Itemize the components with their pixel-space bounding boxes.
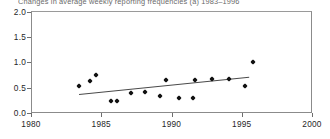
x-axis-tick-mark	[31, 113, 32, 117]
y-axis-tick-mark	[27, 12, 31, 13]
x-axis-tick-mark	[312, 113, 313, 117]
x-axis-tick-label: 1995	[222, 119, 262, 129]
x-axis-tick-label: 2000	[292, 119, 330, 129]
y-axis-tick-mark	[27, 62, 31, 63]
x-axis-tick-label: 1980	[11, 119, 51, 129]
x-axis-tick-mark	[172, 113, 173, 117]
x-axis-tick-mark	[101, 113, 102, 117]
x-axis-tick-label: 1990	[152, 119, 192, 129]
y-axis-tick-label: 0.5	[2, 83, 26, 93]
y-axis-tick-mark	[27, 37, 31, 38]
y-axis-tick-label: 1.5	[2, 32, 26, 42]
x-axis-tick-label: 1985	[81, 119, 121, 129]
y-axis-tick-mark	[27, 88, 31, 89]
y-axis-tick-label: 1.0	[2, 57, 26, 67]
y-axis-tick-label: 2.0	[2, 7, 26, 17]
y-axis-tick-label: 0.0	[2, 108, 26, 118]
chart-figure: Changes in average weekly reporting freq…	[0, 0, 330, 139]
x-axis-tick-mark	[242, 113, 243, 117]
